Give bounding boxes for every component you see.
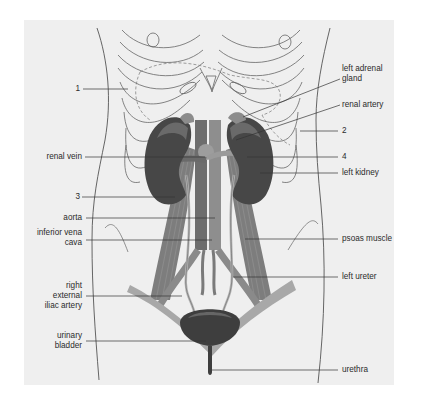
label-left-ureter: left ureter <box>342 272 377 282</box>
vena-cava <box>195 120 207 250</box>
label-3: 3 <box>40 192 80 202</box>
label-urethra: urethra <box>342 365 368 375</box>
label-inferior-vena-cava: inferior vena cava <box>10 228 82 248</box>
label-left-kidney: left kidney <box>342 168 379 178</box>
label-right-external-iliac-artery: right external iliac artery <box>10 281 82 311</box>
label-psoas-muscle: psoas muscle <box>342 234 392 244</box>
aorta <box>209 120 221 250</box>
label-renal-vein: renal vein <box>20 152 82 162</box>
label-1: 1 <box>40 84 80 94</box>
label-4: 4 <box>342 152 347 162</box>
urethra-shape <box>208 346 212 375</box>
label-aorta: aorta <box>20 213 82 223</box>
label-renal-artery: renal artery <box>342 100 383 110</box>
label-left-adrenal-gland: left adrenal gland <box>342 64 383 84</box>
label-urinary-bladder: urinary bladder <box>10 331 82 351</box>
label-2: 2 <box>342 126 347 136</box>
